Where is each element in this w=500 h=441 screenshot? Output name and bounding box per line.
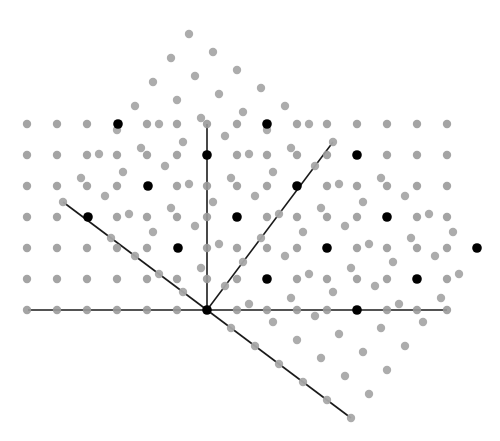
square-lattice-point	[143, 244, 151, 252]
rotated-lattice-point	[185, 180, 193, 188]
square-lattice-point	[263, 182, 271, 190]
square-lattice-point	[413, 213, 421, 221]
square-lattice-point	[353, 213, 361, 221]
rotated-lattice-point	[227, 324, 235, 332]
square-lattice-point	[443, 244, 451, 252]
rotated-lattice-point	[101, 192, 109, 200]
rotated-lattice-point	[179, 288, 187, 296]
square-lattice-point	[233, 120, 241, 128]
rotated-lattice-point	[131, 102, 139, 110]
rotated-lattice-point	[317, 204, 325, 212]
rotated-lattice-point	[347, 264, 355, 272]
rotated-lattice-point	[341, 372, 349, 380]
rotated-lattice-point	[287, 144, 295, 152]
rotated-lattice-point	[209, 48, 217, 56]
rotated-lattice-point	[239, 108, 247, 116]
rotated-lattice-point	[269, 168, 277, 176]
square-lattice-point	[293, 306, 301, 314]
square-lattice-point	[293, 151, 301, 159]
square-lattice-point	[233, 151, 241, 159]
lattice-canvas	[0, 0, 500, 441]
square-lattice-point	[53, 213, 61, 221]
rotated-lattice-point	[299, 228, 307, 236]
coincidence-point	[292, 181, 302, 191]
rotated-lattice-point	[275, 210, 283, 218]
square-lattice-point	[113, 182, 121, 190]
square-lattice-point	[353, 182, 361, 190]
square-lattice-point	[203, 275, 211, 283]
rotated-lattice-point	[161, 162, 169, 170]
square-lattice-point	[113, 244, 121, 252]
square-lattice-point	[23, 151, 31, 159]
rotated-lattice-point	[245, 300, 253, 308]
rotated-lattice-point	[329, 138, 337, 146]
rotated-lattice-point	[221, 132, 229, 140]
square-lattice-point	[203, 244, 211, 252]
square-lattice-point	[263, 244, 271, 252]
rotated-lattice-point	[173, 96, 181, 104]
square-lattice-point	[383, 151, 391, 159]
rotated-lattice-point	[419, 318, 427, 326]
rotated-lattice-point	[227, 174, 235, 182]
square-lattice-point	[53, 120, 61, 128]
rotated-lattice-point	[149, 228, 157, 236]
square-lattice-point	[113, 213, 121, 221]
square-lattice-point	[383, 182, 391, 190]
coincidence-point	[472, 243, 482, 253]
rotated-lattice-point	[275, 360, 283, 368]
coincidence-point	[202, 305, 212, 315]
rotated-lattice-point	[245, 150, 253, 158]
square-lattice-point	[173, 151, 181, 159]
square-lattice-point	[113, 306, 121, 314]
rotated-lattice-point	[323, 396, 331, 404]
rotated-lattice-point	[329, 288, 337, 296]
square-lattice-point	[383, 244, 391, 252]
square-lattice-point	[263, 213, 271, 221]
rotated-lattice-point	[383, 366, 391, 374]
rotated-lattice-point	[107, 234, 115, 242]
rotated-lattice-point	[317, 354, 325, 362]
square-lattice-point	[353, 275, 361, 283]
rotated-lattice-point	[155, 270, 163, 278]
rotated-lattice-point	[191, 222, 199, 230]
rotated-lattice-point	[401, 342, 409, 350]
square-lattice-point	[443, 306, 451, 314]
rotated-lattice-point	[185, 30, 193, 38]
rotated-lattice-point	[371, 282, 379, 290]
coincidence-point	[83, 212, 93, 222]
rotated-lattice-point	[179, 138, 187, 146]
rotated-lattice-point	[137, 144, 145, 152]
square-lattice-point	[443, 151, 451, 159]
square-lattice-point	[293, 213, 301, 221]
square-lattice-point	[413, 182, 421, 190]
square-lattice-point	[203, 213, 211, 221]
square-lattice-point	[233, 306, 241, 314]
square-lattice-point	[83, 306, 91, 314]
rotated-lattice-point	[311, 162, 319, 170]
square-lattice-point	[443, 182, 451, 190]
square-lattice-point	[443, 120, 451, 128]
square-lattice-point	[173, 213, 181, 221]
rotated-lattice-point	[167, 54, 175, 62]
coincidence-point	[262, 274, 272, 284]
rotated-lattice-point	[77, 174, 85, 182]
rotated-lattice-point	[59, 198, 67, 206]
square-lattice-point	[23, 306, 31, 314]
rotated-lattice-point	[377, 324, 385, 332]
square-lattice-point	[53, 306, 61, 314]
square-lattice-point	[113, 275, 121, 283]
square-lattice-point	[383, 120, 391, 128]
rotated-lattice-point	[365, 390, 373, 398]
square-lattice-point	[23, 120, 31, 128]
rotated-lattice-point	[377, 174, 385, 182]
rotated-lattice-point	[311, 312, 319, 320]
square-lattice-point	[383, 306, 391, 314]
rotated-lattice-point	[257, 234, 265, 242]
rotated-lattice-point	[239, 258, 247, 266]
rotated-lattice-point	[389, 258, 397, 266]
square-lattice-point	[83, 244, 91, 252]
rotated-lattice-point	[95, 150, 103, 158]
square-lattice-point	[323, 213, 331, 221]
rotated-lattice-point	[455, 270, 463, 278]
coincidence-point	[113, 119, 123, 129]
